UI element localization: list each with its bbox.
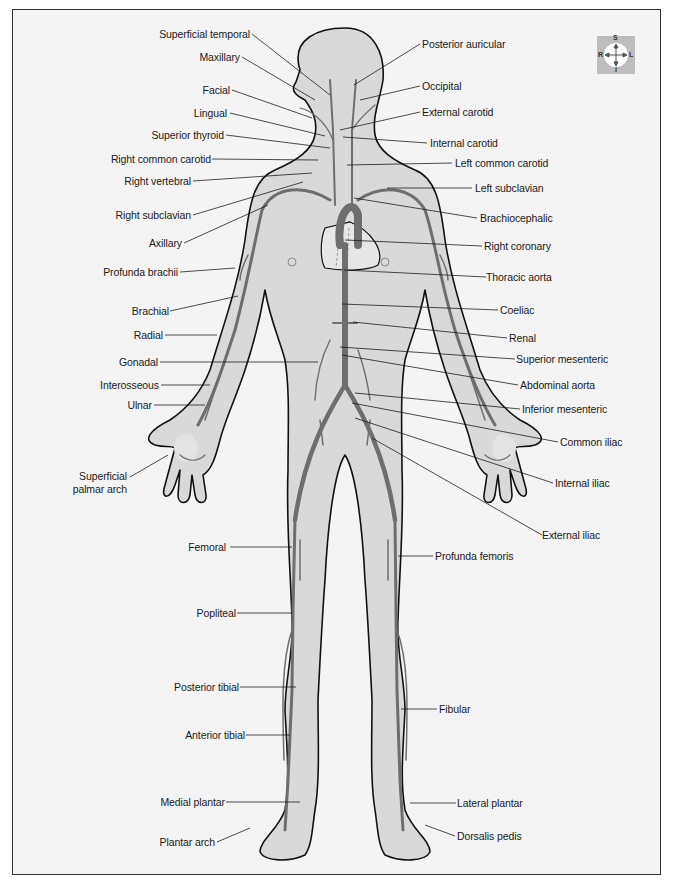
orientation-compass: S I R L xyxy=(597,36,635,74)
label-femoral: Femoral xyxy=(188,541,226,553)
label-anterior-tibial: Anterior tibial xyxy=(185,729,245,741)
label-medial-plantar: Medial plantar xyxy=(160,796,225,808)
label-external-carotid: External carotid xyxy=(422,106,493,118)
label-renal: Renal xyxy=(509,332,536,344)
label-external-iliac: External iliac xyxy=(542,529,600,541)
label-ulnar: Ulnar xyxy=(127,399,152,411)
label-internal-carotid: Internal carotid xyxy=(430,137,498,149)
label-lateral-plantar: Lateral plantar xyxy=(457,797,523,809)
label-superficial-palmar-arch-line1: Superficial xyxy=(79,470,127,482)
label-facial: Facial xyxy=(203,84,230,96)
label-right-subclavian: Right subclavian xyxy=(116,209,191,221)
label-superficial-temporal: Superficial temporal xyxy=(159,28,250,40)
label-occipital: Occipital xyxy=(422,80,461,92)
label-superior-mesenteric: Superior mesenteric xyxy=(516,353,608,365)
label-coeliac: Coeliac xyxy=(500,304,534,316)
label-axillary: Axillary xyxy=(149,237,182,249)
label-profunda-femoris: Profunda femoris xyxy=(435,550,513,562)
label-abdominal-aorta: Abdominal aorta xyxy=(520,379,595,391)
label-thoracic-aorta: Thoracic aorta xyxy=(486,271,552,283)
label-radial: Radial xyxy=(134,329,163,341)
label-dorsalis-pedis: Dorsalis pedis xyxy=(457,830,522,842)
label-right-common-carotid: Right common carotid xyxy=(111,153,211,165)
label-popliteal: Popliteal xyxy=(197,607,236,619)
label-common-iliac: Common iliac xyxy=(560,436,622,448)
label-gonadal: Gonadal xyxy=(119,356,158,368)
label-interosseous: Interosseous xyxy=(100,379,159,391)
label-left-subclavian: Left subclavian xyxy=(475,182,544,194)
label-brachiocephalic: Brachiocephalic xyxy=(480,212,553,224)
label-maxillary: Maxillary xyxy=(199,51,240,63)
label-posterior-tibial: Posterior tibial xyxy=(174,681,239,693)
label-lingual: Lingual xyxy=(194,107,227,119)
label-superficial-palmar-arch-line2: palmar arch xyxy=(73,483,127,495)
compass-inferior: I xyxy=(615,66,617,73)
compass-superior: S xyxy=(613,34,618,41)
label-plantar-arch: Plantar arch xyxy=(160,836,215,848)
compass-left: L xyxy=(629,51,633,58)
label-inferior-mesenteric: Inferior mesenteric xyxy=(522,403,607,415)
label-profunda-brachii: Profunda brachii xyxy=(103,266,178,278)
label-superior-thyroid: Superior thyroid xyxy=(151,129,224,141)
label-brachial: Brachial xyxy=(132,305,169,317)
label-left-common-carotid: Left common carotid xyxy=(455,157,548,169)
label-internal-iliac: Internal iliac xyxy=(555,477,610,489)
compass-right: R xyxy=(598,51,603,58)
label-right-vertebral: Right vertebral xyxy=(124,175,191,187)
label-right-coronary: Right coronary xyxy=(484,240,551,252)
label-posterior-auricular: Posterior auricular xyxy=(422,38,505,50)
label-fibular: Fibular xyxy=(439,703,470,715)
